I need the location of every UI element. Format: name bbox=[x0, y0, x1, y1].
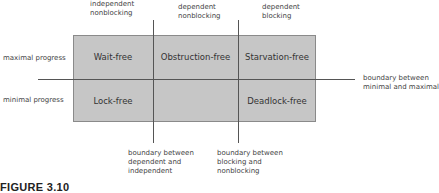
boundary-line-blocking-nonblocking bbox=[238, 20, 239, 143]
header-line: dependent bbox=[178, 3, 221, 12]
figure-caption: FIGURE 3.10 bbox=[0, 181, 69, 193]
boundary-line-dependent-independent bbox=[153, 20, 154, 143]
cell-obstruction-free: Obstruction-free bbox=[153, 35, 238, 79]
boundary-label-line: independent bbox=[128, 167, 194, 176]
cell-deadlock-free: Deadlock-free bbox=[238, 79, 316, 122]
boundary-line-minimal-maximal bbox=[38, 79, 355, 80]
cell-empty bbox=[153, 79, 238, 122]
row-label-minimal-progress: minimal progress bbox=[3, 96, 64, 105]
boundary-label-line: blocking and bbox=[217, 158, 283, 167]
boundary-label-blocking-nonblocking: boundary between blocking and nonblockin… bbox=[217, 149, 283, 176]
boundary-label-line: nonblocking bbox=[217, 167, 283, 176]
cell-wait-free: Wait-free bbox=[73, 35, 153, 79]
header-line: blocking bbox=[262, 12, 300, 21]
header-line: dependent bbox=[262, 3, 300, 12]
cell-lock-free: Lock-free bbox=[73, 79, 153, 122]
row-label-maximal-progress: maximal progress bbox=[3, 54, 66, 63]
boundary-label-line: boundary between bbox=[363, 74, 439, 83]
boundary-label-line: boundary between bbox=[217, 149, 283, 158]
boundary-label-line: boundary between bbox=[128, 149, 194, 158]
boundary-label-dependent-independent: boundary between dependent and independe… bbox=[128, 149, 194, 176]
cell-starvation-free: Starvation-free bbox=[238, 35, 316, 79]
header-line: nonblocking bbox=[178, 12, 221, 21]
column-header-dependent-nonblocking: dependent nonblocking bbox=[178, 3, 221, 21]
header-line: independent bbox=[90, 0, 134, 9]
column-header-dependent-blocking: dependent blocking bbox=[262, 3, 300, 21]
boundary-label-line: dependent and bbox=[128, 158, 194, 167]
boundary-label-line: minimal and maximal bbox=[363, 83, 439, 92]
column-header-independent-nonblocking: independent nonblocking bbox=[90, 0, 134, 18]
boundary-label-minimal-maximal: boundary between minimal and maximal bbox=[363, 74, 439, 92]
header-line: nonblocking bbox=[90, 9, 134, 18]
